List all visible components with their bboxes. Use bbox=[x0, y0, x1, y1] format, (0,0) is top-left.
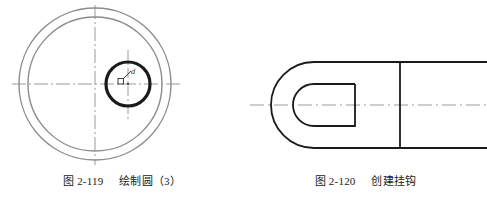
figure-page: d 图 2-119 绘制圆（3） 图 2-120 创建挂钩 bbox=[0, 0, 487, 197]
circle-drawing: d bbox=[0, 0, 244, 197]
osnap-tooltip: d bbox=[118, 68, 136, 84]
osnap-label: d bbox=[131, 68, 136, 76]
figure-caption: 图 2-119 绘制圆（3） bbox=[0, 172, 244, 188]
caption-title: 绘制圆（3） bbox=[119, 175, 181, 187]
center-point bbox=[127, 83, 129, 85]
caption-title: 创建挂钩 bbox=[371, 175, 416, 187]
figure-caption: 图 2-120 创建挂钩 bbox=[244, 172, 487, 188]
figure-2-120: 图 2-120 创建挂钩 bbox=[244, 0, 487, 197]
caption-number: 图 2-120 bbox=[315, 175, 356, 187]
osnap-square-icon bbox=[118, 79, 124, 85]
figure-2-119: d 图 2-119 绘制圆（3） bbox=[0, 0, 244, 197]
osnap-leader-line bbox=[124, 71, 132, 79]
hook-drawing bbox=[244, 0, 487, 197]
caption-number: 图 2-119 bbox=[63, 175, 103, 187]
